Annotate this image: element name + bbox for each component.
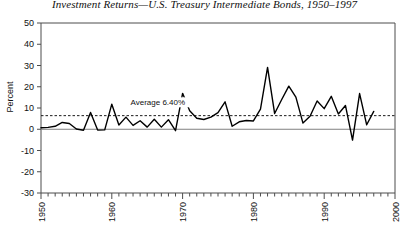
x-tick-label: 1960 [107,202,117,222]
y-tick-label: 0 [29,124,34,134]
y-axis-ticks: 50403020100-10-20-30 [21,18,41,198]
x-axis-ticks: 195019601970198019902000 [37,193,401,222]
y-tick-label: -10 [21,146,34,156]
average-line-label: Average 6.40% [131,98,186,107]
y-tick-label: 10 [24,103,34,113]
x-tick-label: 1950 [37,202,47,222]
x-tick-label: 1990 [320,202,330,222]
plot-area: 50403020100-10-20-30 1950196019701980199… [0,0,409,252]
y-tick-label: 30 [24,61,34,71]
axes-box [41,23,395,193]
x-tick-label: 1980 [249,202,259,222]
y-tick-label: -20 [21,167,34,177]
y-tick-label: 40 [24,39,34,49]
chart-annotations: Average 6.40% [124,97,192,107]
x-tick-label: 1970 [178,202,188,222]
x-tick-label: 2000 [391,202,401,222]
chart-figure: Investment Returns—U.S. Treasury Interme… [0,0,409,252]
y-tick-label: 20 [24,82,34,92]
y-tick-label: -30 [21,188,34,198]
plot-frame [41,23,395,193]
y-tick-label: 50 [24,18,34,28]
